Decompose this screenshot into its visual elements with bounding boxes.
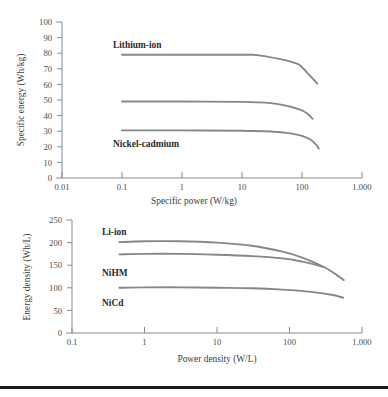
chart2-xtick-100: 100 [283, 337, 296, 347]
chart1-label-nickel-cadmium: Nickel-cadmium [113, 139, 179, 149]
chart2-xtick-1: 1 [142, 337, 146, 347]
chart1-svg: 100 90 80 70 60 50 40 30 20 10 0 0.01 0.… [0, 0, 388, 200]
chart2-curve-nihm [119, 254, 323, 267]
chart2-label-nihm: NiHM [102, 268, 128, 278]
bottom-horizontal-rule [0, 386, 388, 389]
chart1-y-axis-title: Specific energy (Wh/kg) [16, 54, 27, 147]
chart2-ytick-50: 50 [53, 306, 62, 316]
chart2-ytick-200: 200 [49, 238, 62, 248]
chart2-ytick-250: 250 [49, 215, 62, 225]
chart1-y-ticks [56, 22, 62, 178]
chart2-annotations: Li-ion NiHM NiCd [102, 227, 128, 308]
chart2-curve-li-ion [119, 241, 343, 280]
chart1-ytick-0: 0 [48, 173, 52, 183]
chart1-label-lithium-ion: Lithium-ion [113, 40, 162, 50]
chart2-ytick-0: 0 [58, 328, 62, 338]
chart2-xtick-1000: 1,000 [352, 337, 371, 347]
chart1-x-ticks [62, 172, 362, 178]
chart2-label-li-ion: Li-ion [102, 227, 127, 237]
figure-container: 100 90 80 70 60 50 40 30 20 10 0 0.01 0.… [0, 0, 388, 397]
chart1-ytick-60: 60 [43, 80, 52, 90]
chart1-ytick-70: 70 [43, 64, 52, 74]
chart2-ytick-150: 150 [49, 260, 62, 270]
chart1-curve-nickel-metal-hydride [122, 102, 313, 119]
chart2-curve-nicd [119, 287, 343, 297]
chart1-ytick-100: 100 [39, 17, 52, 27]
chart2-ytick-100: 100 [49, 283, 62, 293]
chart1-ytick-10: 10 [43, 158, 52, 168]
chart1-ytick-90: 90 [43, 33, 52, 43]
chart1-series-group [122, 55, 319, 149]
chart1-curve-lithium-ion [122, 55, 317, 84]
chart2-y-ticks [66, 220, 72, 333]
chart1-ytick-50: 50 [43, 95, 52, 105]
chart2-svg: 250 200 150 100 50 0 0.1 1 10 100 1,000 … [0, 205, 388, 377]
chart2-label-nicd: NiCd [102, 298, 124, 308]
chart2-xtick-10: 10 [213, 337, 222, 347]
chart2-x-axis-title: Power density (W/L) [177, 354, 256, 365]
chart2-xtick-0-1: 0.1 [67, 337, 78, 347]
chart1-ytick-20: 20 [43, 142, 52, 152]
chart2-y-axis-title: Energy density (Wh/L) [22, 234, 33, 321]
chart2-series-group [119, 241, 343, 298]
chart1-ytick-30: 30 [43, 126, 52, 136]
chart1-ytick-40: 40 [43, 111, 52, 121]
chart2-x-ticks [72, 327, 362, 333]
chart-specific-energy: 100 90 80 70 60 50 40 30 20 10 0 0.01 0.… [0, 0, 388, 200]
chart1-ytick-80: 80 [43, 48, 52, 58]
chart-energy-density: 250 200 150 100 50 0 0.1 1 10 100 1,000 … [0, 205, 388, 377]
chart1-annotations: Lithium-ion Nickel-cadmium [113, 40, 179, 149]
